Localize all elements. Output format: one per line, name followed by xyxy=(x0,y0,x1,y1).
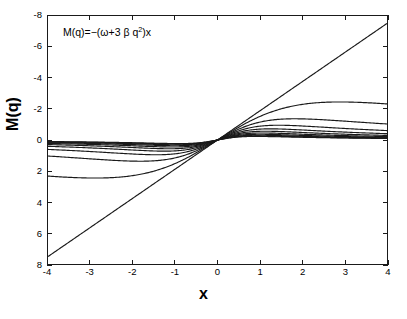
y-tick-label: 6 xyxy=(14,229,42,239)
x-tick-mark xyxy=(132,260,133,265)
x-tick-label: 0 xyxy=(203,267,233,277)
x-tick-mark xyxy=(302,15,303,20)
x-tick-mark xyxy=(89,260,90,265)
x-tick-mark xyxy=(47,15,48,20)
y-tick-mark xyxy=(47,233,52,234)
x-tick-label: -3 xyxy=(75,267,105,277)
y-tick-label: 8 xyxy=(14,260,42,270)
x-tick-label: 3 xyxy=(330,267,360,277)
x-tick-mark xyxy=(302,260,303,265)
plot-area xyxy=(47,15,388,265)
x-tick-mark xyxy=(260,260,261,265)
y-tick-mark xyxy=(383,171,388,172)
y-tick-label: -8 xyxy=(14,10,42,20)
y-tick-mark xyxy=(47,108,52,109)
x-tick-label: 4 xyxy=(373,267,403,277)
y-tick-mark xyxy=(383,46,388,47)
x-tick-mark xyxy=(132,15,133,20)
y-tick-mark xyxy=(47,77,52,78)
y-tick-mark xyxy=(383,77,388,78)
equation-annotation: M(q)=−(ω+3 β q2)x xyxy=(63,26,151,38)
y-tick-mark xyxy=(383,202,388,203)
y-tick-mark xyxy=(47,46,52,47)
y-tick-mark xyxy=(383,233,388,234)
x-tick-label: 1 xyxy=(245,267,275,277)
x-tick-mark xyxy=(174,15,175,20)
figure-canvas: -4-3-2-101234 86420-2-4-6-8 M(q)=−(ω+3 β… xyxy=(0,0,407,319)
x-tick-mark xyxy=(89,15,90,20)
curve-series-group xyxy=(48,16,387,264)
y-tick-mark xyxy=(47,171,52,172)
x-tick-mark xyxy=(217,15,218,20)
x-tick-mark xyxy=(217,260,218,265)
x-tick-label: 2 xyxy=(288,267,318,277)
equation-head: M(q)=−(ω+3 β q xyxy=(63,26,138,38)
y-tick-mark xyxy=(383,108,388,109)
y-tick-mark xyxy=(47,202,52,203)
x-tick-mark xyxy=(345,15,346,20)
y-tick-label: 2 xyxy=(14,166,42,176)
y-tick-label: 4 xyxy=(14,198,42,208)
y-tick-mark xyxy=(383,140,388,141)
curve-path xyxy=(48,136,387,143)
x-axis-title: x xyxy=(0,285,407,303)
y-tick-label: -6 xyxy=(14,41,42,51)
x-tick-label: -1 xyxy=(160,267,190,277)
y-tick-mark xyxy=(47,15,52,16)
y-axis-title: M(q) xyxy=(4,79,22,149)
y-tick-mark xyxy=(383,15,388,16)
x-tick-label: -2 xyxy=(117,267,147,277)
x-tick-mark xyxy=(345,260,346,265)
x-tick-mark xyxy=(174,260,175,265)
equation-tail: )x xyxy=(142,26,151,38)
y-tick-mark xyxy=(47,140,52,141)
x-tick-mark xyxy=(260,15,261,20)
x-tick-mark xyxy=(388,15,389,20)
